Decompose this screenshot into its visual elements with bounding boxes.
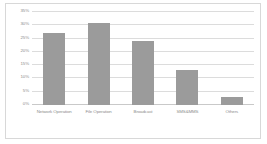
bar-group: Broadcast — [121, 12, 165, 105]
bar-group: Network Operation — [32, 12, 76, 105]
bar — [176, 70, 198, 105]
x-axis-category-label: Others — [213, 109, 251, 115]
x-axis-category-label: SMS&MMS — [168, 109, 206, 115]
y-axis-tick-label: 10% — [21, 75, 30, 79]
y-axis-tick-label: 20% — [21, 49, 30, 53]
bar-group: File Operation — [76, 12, 120, 105]
x-axis-category-label: Broadcast — [124, 109, 162, 115]
x-axis-category-label: File Operation — [80, 109, 118, 115]
y-axis-tick-label: 0% — [23, 102, 29, 106]
y-axis-tick-label: 35% — [21, 9, 30, 13]
bar — [43, 33, 65, 105]
bar — [221, 97, 243, 105]
bar-group: SMS&MMS — [165, 12, 209, 105]
y-axis-tick-label: 5% — [23, 89, 29, 93]
bar — [88, 23, 110, 105]
chart-container: 35%30%25%20%15%10%5%0% Network Operation… — [5, 3, 261, 139]
plot-area: 35%30%25%20%15%10%5%0% Network Operation… — [32, 12, 254, 105]
y-axis-tick-label: 30% — [21, 22, 30, 26]
y-axis-tick-label: 25% — [21, 35, 30, 39]
bar — [132, 41, 154, 105]
y-axis-tick-label: 15% — [21, 62, 30, 66]
bar-series: Network OperationFile OperationBroadcast… — [32, 12, 254, 105]
bar-group: Others — [210, 12, 254, 105]
x-axis-category-label: Network Operation — [35, 109, 73, 115]
